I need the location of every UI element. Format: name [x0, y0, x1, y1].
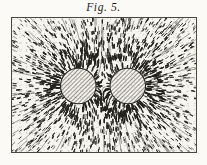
magnetic-field-illustration: [12, 18, 196, 152]
figure-caption: Fig. 5.: [0, 0, 207, 17]
pole-right: [110, 68, 146, 103]
engraving-plate: [11, 17, 197, 153]
pole-left: [60, 68, 96, 103]
figure-page: Fig. 5.: [0, 0, 207, 165]
